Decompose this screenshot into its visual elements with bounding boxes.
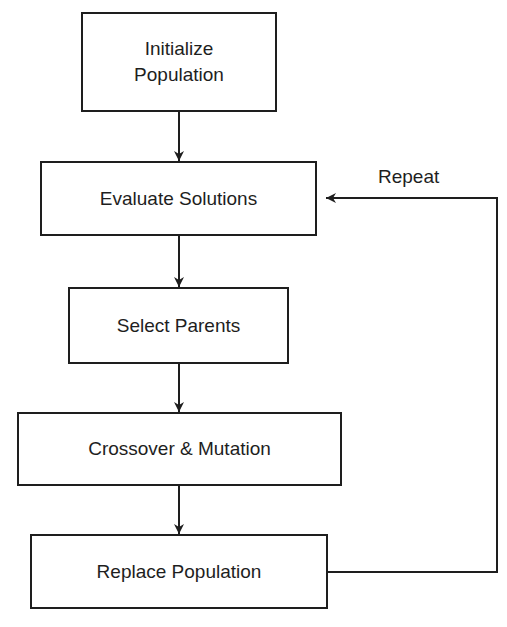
step-label: Replace Population [97,559,262,585]
arrow-repeat-loop [326,198,497,572]
step-evaluate-solutions: Evaluate Solutions [40,161,317,236]
step-select-parents: Select Parents [68,287,289,364]
flowchart-canvas: Initialize Population Evaluate Solutions… [0,0,507,627]
step-label: Evaluate Solutions [100,186,257,212]
step-initialize-population: Initialize Population [81,12,277,112]
repeat-loop-label: Repeat [378,166,439,188]
step-replace-population: Replace Population [30,534,328,609]
step-crossover-mutation: Crossover & Mutation [17,412,342,486]
step-label-line2: Population [134,62,224,88]
step-label: Crossover & Mutation [88,436,271,462]
step-label: Select Parents [117,313,241,339]
step-label-line1: Initialize [145,36,214,62]
